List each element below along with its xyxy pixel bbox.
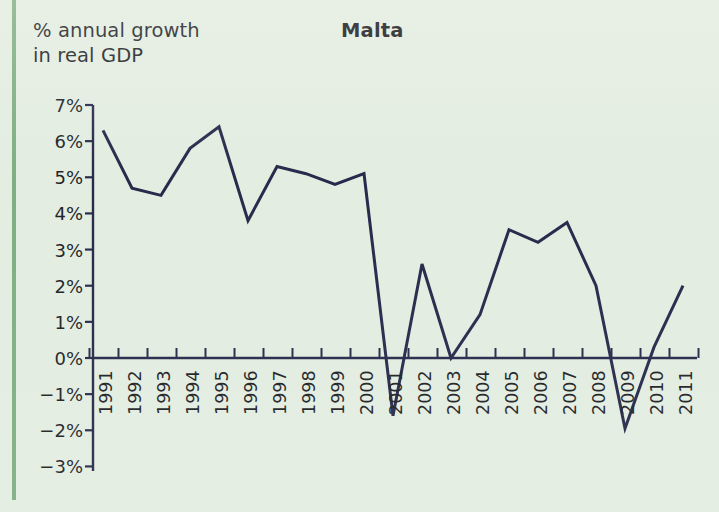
x-axis-tick-label: 2006 [531,370,551,415]
y-axis-tick-label: 7% [23,95,83,116]
x-axis-tick-label: 2004 [473,370,493,415]
x-axis-tick-label: 2010 [647,370,667,415]
x-axis-tick-label: 2000 [357,370,377,415]
x-axis-tick-label: 2011 [676,370,696,415]
y-axis-tick-label: −3% [23,456,83,477]
x-axis-tick-label: 2005 [502,370,522,415]
x-axis-tick-label: 2003 [444,370,464,415]
x-axis-tick-label: 1998 [299,370,319,415]
y-axis-tick-label: −2% [23,420,83,441]
x-axis-tick-label: 1992 [125,370,145,415]
y-axis-tick-label: −1% [23,384,83,405]
y-axis-tick-label: 5% [23,167,83,188]
x-axis-tick-label: 2009 [618,370,638,415]
y-axis-tick-label: 0% [23,348,83,369]
x-axis-tick-label: 2007 [560,370,580,415]
x-axis-tick-label: 1991 [96,370,116,415]
line-chart-plot [0,0,719,512]
chart-page: % annual growth in real GDP Malta 7%6%5%… [0,0,719,512]
x-axis-tick-label: 2002 [415,370,435,415]
y-axis-tick-label: 2% [23,275,83,296]
x-axis-tick-label: 1997 [270,370,290,415]
x-axis-tick-label: 1996 [241,370,261,415]
x-axis-tick-label: 2001 [386,370,406,415]
chart-svg [0,0,719,512]
x-axis-tick-label: 1993 [154,370,174,415]
x-axis-tick-label: 2008 [589,370,609,415]
x-axis-tick-label: 1994 [183,370,203,415]
y-axis-tick-label: 1% [23,311,83,332]
x-axis-tick-label: 1999 [328,370,348,415]
y-axis-tick-label: 3% [23,239,83,260]
x-axis-tick-label: 1995 [212,370,232,415]
y-axis-tick-label: 6% [23,131,83,152]
y-axis-tick-label: 4% [23,203,83,224]
